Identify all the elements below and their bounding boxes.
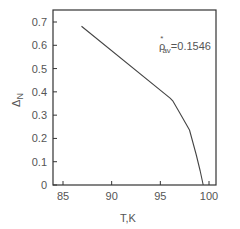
y-tick-label: 0.3 bbox=[32, 109, 47, 121]
y-tick-label: 0.6 bbox=[32, 39, 47, 51]
x-tick-label: 95 bbox=[154, 190, 166, 202]
chart: 00.10.20.30.40.50.60.7 859095100 T,K ΔN … bbox=[0, 0, 240, 229]
x-axis-title: T,K bbox=[120, 212, 137, 224]
x-axis-ticks: 859095100 bbox=[57, 181, 218, 202]
y-tick-label: 0 bbox=[41, 179, 47, 191]
y-tick-label: 0.1 bbox=[32, 156, 47, 168]
svg-text:ΔN: ΔN bbox=[10, 93, 25, 107]
y-tick-label: 0.7 bbox=[32, 16, 47, 28]
y-axis-title: ΔN bbox=[10, 93, 25, 107]
y-tick-label: 0.4 bbox=[32, 86, 47, 98]
rho-superscript: * bbox=[160, 34, 163, 43]
plot-frame bbox=[53, 10, 216, 185]
rho-value: =0.1546 bbox=[171, 40, 211, 52]
x-tick-label: 100 bbox=[200, 190, 218, 202]
y-tick-label: 0.5 bbox=[32, 63, 47, 75]
x-tick-label: 85 bbox=[57, 190, 69, 202]
rho-annotation: ρ*av=0.1546 bbox=[159, 34, 211, 55]
y-axis-title-sub: N bbox=[15, 93, 25, 100]
x-tick-label: 90 bbox=[106, 190, 118, 202]
y-tick-label: 0.2 bbox=[32, 132, 47, 144]
rho-subscript: av bbox=[162, 46, 170, 55]
